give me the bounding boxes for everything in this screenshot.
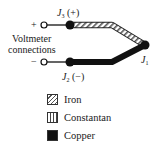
voltmeter-label-line1: Voltmeter	[12, 34, 51, 44]
junction-j1-dot	[141, 41, 150, 50]
junction-j3-label: J3 (+)	[57, 8, 79, 21]
junction-j2-label: J2 (−)	[62, 72, 84, 85]
iron-swatch-icon	[47, 94, 58, 105]
constantan-swatch-icon	[47, 112, 58, 123]
legend-constantan-label: Constantan	[64, 112, 111, 123]
copper-wire	[70, 45, 145, 62]
junction-j1-label: J1	[141, 55, 148, 68]
plus-sign: +	[31, 20, 37, 30]
minus-sign: −	[31, 57, 37, 67]
iron-wire	[70, 25, 145, 45]
legend-copper-label: Copper	[64, 130, 95, 141]
minus-terminal-icon	[41, 59, 47, 65]
junction-j3-dot	[66, 21, 75, 30]
voltmeter-label-line2: connections	[8, 45, 56, 55]
junction-j2-dot	[66, 58, 75, 67]
copper-swatch-icon	[47, 130, 58, 141]
legend-iron-label: Iron	[64, 94, 82, 105]
plus-terminal-icon	[41, 22, 47, 28]
